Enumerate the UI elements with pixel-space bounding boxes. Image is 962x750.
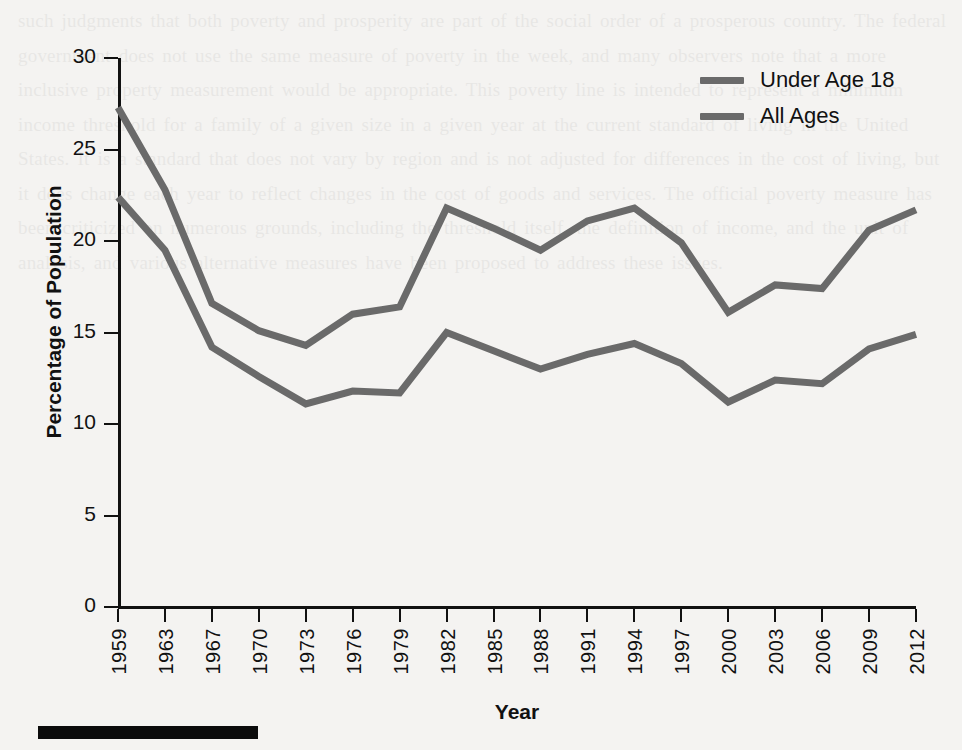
series-line-under-age-18 (118, 107, 916, 345)
print-artifact-bar (38, 726, 258, 739)
series-line-all-ages (118, 197, 916, 404)
plot-area (0, 0, 962, 750)
line-chart-figure: 051015202530 195919631967197019731976197… (0, 0, 962, 750)
